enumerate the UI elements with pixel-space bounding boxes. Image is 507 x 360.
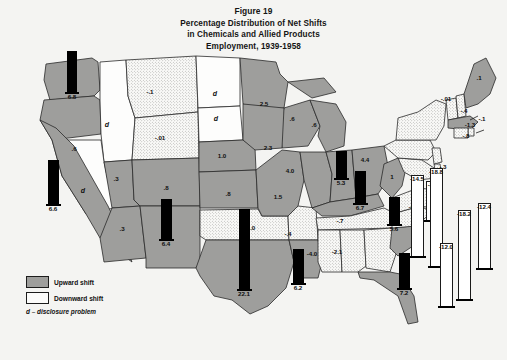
legend-disclosure-note: d – disclosure problem — [26, 308, 103, 315]
bar-label-wa: 6.8 — [68, 93, 77, 100]
state-value-ks: .8 — [226, 190, 231, 197]
state-value-tn: -.7 — [337, 217, 344, 224]
state-value-ar: -.4 — [285, 230, 292, 237]
state-value-mo: 1.5 — [274, 193, 282, 200]
bar-stem-ky — [355, 171, 366, 204]
bar-stem-il — [336, 151, 347, 179]
state-value-wi: .6 — [290, 115, 295, 122]
state-value-mt: -.1 — [147, 88, 154, 95]
state-al — [340, 230, 366, 272]
bar-stem-md — [458, 210, 471, 300]
bar-label-nj: -12.0 — [439, 243, 453, 250]
bar-stem-wa — [67, 51, 77, 93]
bar-cap-md — [456, 299, 473, 301]
bar-label-fl: 7.2 — [400, 289, 409, 296]
bar-label-sc: 5.6 — [390, 225, 399, 232]
bar-label-ky: 6.7 — [356, 204, 365, 211]
state-value-ne: 1.0 — [218, 152, 226, 159]
state-value-wv: 1 — [390, 173, 393, 180]
state-value-ia: 2.3 — [264, 144, 272, 151]
state-value-oh: 4.4 — [361, 156, 369, 163]
state-ar — [288, 206, 318, 240]
state-value-ut: .3 — [114, 175, 119, 182]
state-ne — [199, 140, 256, 172]
state-value-nv: d — [81, 187, 85, 194]
bar-label-pa: -14.5 — [410, 175, 424, 182]
bar-cap-pa — [409, 256, 426, 258]
state-value-sd: d — [214, 115, 218, 122]
state-value-ct: -.1 — [479, 115, 486, 122]
bar-stem-pa — [411, 175, 424, 257]
bar-wa: 6.8 — [64, 51, 80, 100]
bar-label-ny: -18.8 — [429, 168, 443, 175]
bar-stem-nm — [161, 199, 172, 240]
leader-ri — [476, 130, 484, 133]
bar-pa: -14.5 — [408, 175, 427, 264]
bar-stem-sc — [389, 197, 400, 225]
legend-swatch-upward — [26, 276, 49, 288]
bar-stem-tx — [239, 209, 250, 290]
bar-label-ne2: -12.4 — [477, 203, 491, 210]
bar-sc: 5.6 — [386, 197, 403, 232]
state-value-id: d — [105, 121, 109, 128]
state-value-az: .3 — [120, 225, 125, 232]
figure-container: Figure 19 Percentage Distribution of Net… — [0, 0, 507, 360]
bar-md: -18.2 — [455, 210, 474, 307]
legend-row-upward: Upward shift — [26, 276, 103, 288]
state-wy — [132, 112, 199, 160]
bar-label-ca: 6.6 — [49, 205, 58, 212]
bar-stem-ne2 — [478, 203, 491, 269]
legend-row-downward: Downward shift — [26, 292, 103, 304]
state-il — [300, 152, 332, 208]
state-value-ms: -4.0 — [307, 250, 317, 257]
bar-nj: -12.0 — [437, 243, 456, 314]
bar-cap-ne2 — [476, 268, 493, 270]
bar-ca: 6.6 — [45, 160, 62, 212]
bar-il: 5.3 — [333, 151, 350, 186]
legend-swatch-downward — [26, 292, 49, 304]
state-value-nd: d — [213, 90, 217, 97]
bar-stem-la — [293, 249, 304, 284]
state-mt — [126, 56, 198, 118]
bar-ky: 6.7 — [352, 171, 369, 211]
bar-label-la: 6.2 — [294, 284, 303, 291]
bar-stem-nj — [440, 243, 453, 307]
state-sd — [198, 106, 243, 142]
state-ny — [396, 100, 446, 140]
state-value-co: .8 — [164, 184, 169, 191]
state-pa — [384, 140, 436, 160]
state-me — [464, 58, 496, 108]
state-mi-up — [288, 78, 336, 98]
state-mo — [256, 150, 304, 216]
state-value-mi: .6 — [312, 121, 317, 128]
bar-tx: 22.1 — [236, 209, 253, 297]
state-value-or: .6 — [72, 145, 77, 152]
state-value-nh: -.01 — [441, 95, 451, 102]
state-value-wy: -.01 — [155, 134, 165, 141]
state-value-mn: 2.5 — [260, 100, 268, 107]
legend-label-upward: Upward shift — [54, 279, 94, 286]
bar-la: 6.2 — [290, 249, 307, 291]
bar-label-tx: 22.1 — [238, 290, 250, 297]
bar-label-md: -18.2 — [457, 210, 471, 217]
state-value-al: -2.1 — [332, 248, 342, 255]
bar-label-il: 5.3 — [337, 179, 346, 186]
bar-ne2: -12.4 — [475, 203, 494, 276]
state-value-ri: -.8 — [463, 132, 470, 139]
state-value-ma: -1.3 — [465, 121, 475, 128]
legend: Upward shift Downward shift d – disclosu… — [26, 276, 103, 315]
state-value-il-io: 4.0 — [286, 167, 294, 174]
state-value-me: .1 — [477, 74, 482, 81]
bar-label-nm: 6.4 — [162, 240, 171, 247]
bar-nm: 6.4 — [158, 199, 175, 247]
bar-stem-ca — [48, 160, 59, 205]
bar-cap-nj — [438, 306, 455, 308]
legend-label-downward: Downward shift — [54, 295, 103, 302]
state-value-vt: -.4 — [461, 107, 468, 114]
state-nd — [196, 56, 240, 108]
